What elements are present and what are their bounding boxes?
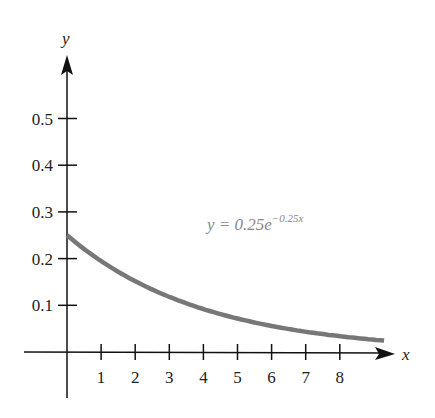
y-tick-label: 0.3: [32, 203, 53, 222]
x-tick-label: 3: [165, 368, 174, 387]
y-tick-label: 0.4: [32, 156, 54, 175]
y-tick-label: 0.2: [32, 250, 53, 269]
x-tick-label: 1: [97, 368, 106, 387]
x-tick-label: 5: [233, 368, 242, 387]
x-tick-label: 6: [267, 368, 276, 387]
plot-area: y x 12345678 0.10.20.30.40.5 y = 0.25e−0…: [0, 0, 435, 418]
x-tick-label: 8: [336, 368, 345, 387]
x-axis-label: x: [401, 345, 410, 364]
x-tick-label: 7: [301, 368, 310, 387]
y-tick-label: 0.5: [32, 110, 53, 129]
x-ticks: 12345678: [97, 344, 344, 387]
exponential-curve: [67, 235, 384, 340]
x-tick-label: 4: [199, 368, 208, 387]
y-tick-label: 0.1: [32, 296, 53, 315]
equation-annotation: y = 0.25e−0.25x: [205, 212, 303, 234]
y-axis-label: y: [60, 29, 70, 48]
x-tick-label: 2: [131, 368, 140, 387]
chart: y x 12345678 0.10.20.30.40.5 y = 0.25e−0…: [0, 0, 435, 418]
y-ticks: 0.10.20.30.40.5: [32, 110, 77, 316]
x-axis: [24, 352, 386, 353]
